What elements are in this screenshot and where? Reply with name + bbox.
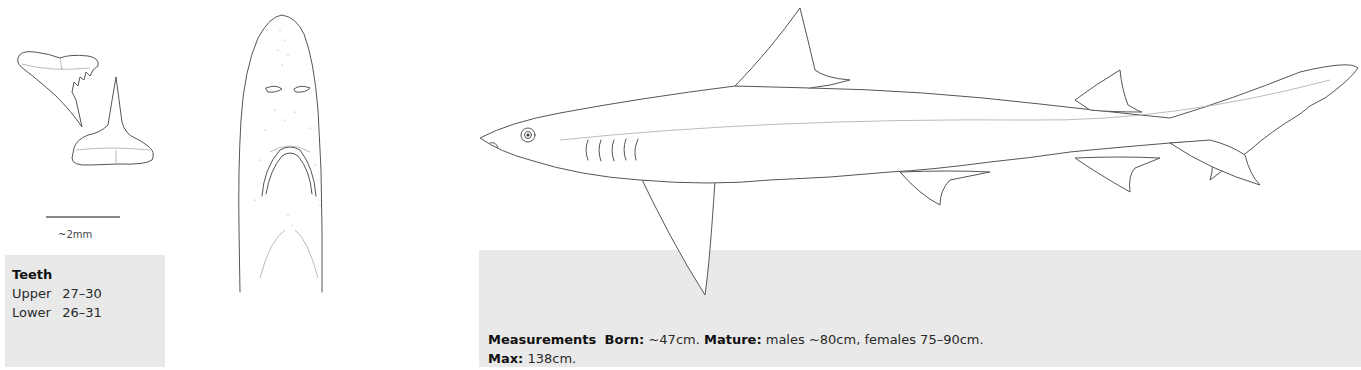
teeth-row-upper: Upper 27–30 xyxy=(12,284,102,303)
teeth-upper-value: 27–30 xyxy=(62,286,102,301)
teeth-row-lower: Lower 26–31 xyxy=(12,303,102,322)
lateral-shark-illustration xyxy=(470,0,1361,330)
teeth-title: Teeth xyxy=(12,265,102,284)
born-label: Born: xyxy=(605,332,645,347)
scale-bar xyxy=(46,216,120,218)
born-value: ~47cm. xyxy=(648,332,699,347)
teeth-info-box: Teeth Upper 27–30 Lower 26–31 xyxy=(5,255,165,367)
teeth-illustration xyxy=(0,0,200,200)
teeth-lower-label: Lower xyxy=(12,303,58,322)
measurements-line-2: Max: 138cm. xyxy=(488,349,984,368)
scale-label: ~2mm xyxy=(58,229,92,240)
teeth-lower-value: 26–31 xyxy=(62,305,102,320)
teeth-upper-label: Upper xyxy=(12,284,58,303)
measurements-title: Measurements xyxy=(488,332,596,347)
measurements-line-1: Measurements Born: ~47cm. Mature: males … xyxy=(488,330,984,349)
max-value: 138cm. xyxy=(527,351,576,366)
mature-label: Mature: xyxy=(704,332,762,347)
mature-value: males ~80cm, females 75–90cm. xyxy=(766,332,984,347)
ventral-head-illustration xyxy=(230,0,320,300)
max-label: Max: xyxy=(488,351,523,366)
